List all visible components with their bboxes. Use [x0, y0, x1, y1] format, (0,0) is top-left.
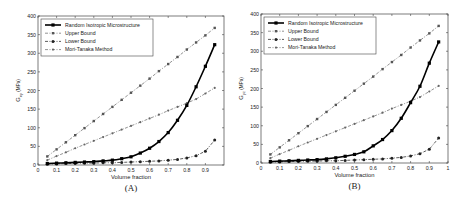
data-point	[167, 63, 169, 65]
data-point	[428, 148, 431, 151]
series-lower-bound	[46, 139, 216, 166]
data-point	[362, 158, 365, 161]
data-point	[139, 84, 141, 86]
data-point	[102, 159, 105, 162]
legend-item: Mori-Tanaka Method	[288, 44, 335, 50]
data-point	[46, 162, 49, 165]
y-tick-label: 150	[250, 104, 259, 110]
legend-item: Upper Bound	[288, 28, 319, 34]
legend-marker	[274, 21, 277, 24]
data-point	[149, 117, 151, 119]
y-tick-label: 400	[250, 11, 259, 17]
y-tick-label: 300	[250, 48, 259, 54]
data-point	[46, 159, 48, 161]
data-point	[297, 132, 299, 134]
data-point	[64, 161, 67, 164]
data-point	[353, 159, 356, 162]
y-tick-label: 350	[250, 30, 259, 36]
data-point	[167, 131, 170, 134]
data-point	[130, 161, 133, 164]
data-point	[344, 155, 347, 158]
data-point	[195, 85, 198, 88]
data-point	[204, 92, 206, 94]
data-point	[325, 134, 327, 136]
x-tick-label: 0.8	[183, 167, 190, 173]
data-point	[55, 148, 57, 150]
y-tick-label: 250	[27, 69, 36, 75]
legend-item: Mori-Tanaka Method	[65, 46, 112, 52]
data-point	[83, 160, 86, 163]
x-tick-label: 0.9	[202, 167, 209, 173]
data-point	[437, 40, 440, 43]
data-point	[381, 112, 383, 114]
data-point	[139, 121, 141, 123]
x-axis-label: Volume fraction	[335, 172, 375, 178]
legend-marker	[275, 30, 277, 32]
data-point	[279, 146, 281, 148]
legend-marker	[52, 49, 54, 51]
data-point	[372, 144, 375, 147]
data-point	[214, 27, 216, 29]
data-point	[65, 141, 67, 143]
y-tick-label: 100	[250, 123, 259, 129]
data-point	[158, 70, 160, 72]
data-point	[213, 139, 216, 142]
data-point	[195, 41, 197, 43]
data-point	[297, 159, 300, 162]
legend-item: Lower Bound	[65, 38, 96, 44]
legend-item: Random Isotropic Microstructure	[65, 22, 140, 28]
data-point	[186, 48, 188, 50]
y-tick-label: 50	[253, 141, 259, 147]
data-point	[195, 154, 198, 157]
legend-item: Random Isotropic Microstructure	[288, 20, 363, 26]
data-point	[279, 153, 281, 155]
data-point	[307, 141, 309, 143]
data-point	[121, 99, 123, 101]
series-random-isotropic-microstructure	[46, 43, 217, 165]
data-point	[269, 160, 272, 163]
data-point	[409, 101, 412, 104]
data-point	[334, 156, 337, 159]
data-point	[400, 117, 403, 120]
x-tick-label: 0.7	[165, 167, 172, 173]
data-point	[334, 159, 337, 162]
data-point	[288, 149, 290, 151]
data-point	[428, 90, 430, 92]
data-point	[176, 106, 178, 108]
data-point	[204, 65, 207, 68]
data-point	[335, 104, 337, 106]
panel-a: 00.10.20.30.40.50.60.70.80.9Volume fract…	[0, 0, 232, 202]
data-point	[409, 46, 411, 48]
data-point	[381, 138, 384, 141]
data-point	[102, 113, 104, 115]
data-point	[419, 96, 421, 98]
x-tick-label: 0.5	[127, 167, 134, 173]
data-point	[204, 150, 207, 153]
x-tick-label: 0.8	[407, 165, 414, 171]
y-axis-label: Gxy(MPa)	[15, 79, 23, 102]
legend-marker	[51, 23, 54, 26]
y-tick-label: 250	[250, 67, 259, 73]
legend-item: Lower Bound	[288, 36, 319, 42]
data-point	[176, 119, 179, 122]
legend-marker	[52, 32, 54, 34]
data-point	[409, 154, 412, 157]
data-point	[157, 159, 160, 162]
data-point	[344, 127, 346, 129]
data-point	[325, 157, 328, 160]
data-point	[372, 115, 374, 117]
x-tick-label: 0.2	[295, 165, 302, 171]
data-point	[288, 139, 290, 141]
data-point	[438, 85, 440, 87]
data-point	[176, 56, 178, 58]
series-random-isotropic-microstructure	[269, 40, 441, 163]
data-point	[353, 153, 356, 156]
y-tick-label: 0	[33, 162, 36, 168]
y-tick-label: 200	[250, 86, 259, 92]
y-tick-label: 100	[27, 125, 36, 131]
data-point	[400, 104, 402, 106]
data-point	[121, 129, 123, 131]
data-point	[167, 159, 170, 162]
data-point	[287, 159, 290, 162]
data-point	[74, 134, 76, 136]
